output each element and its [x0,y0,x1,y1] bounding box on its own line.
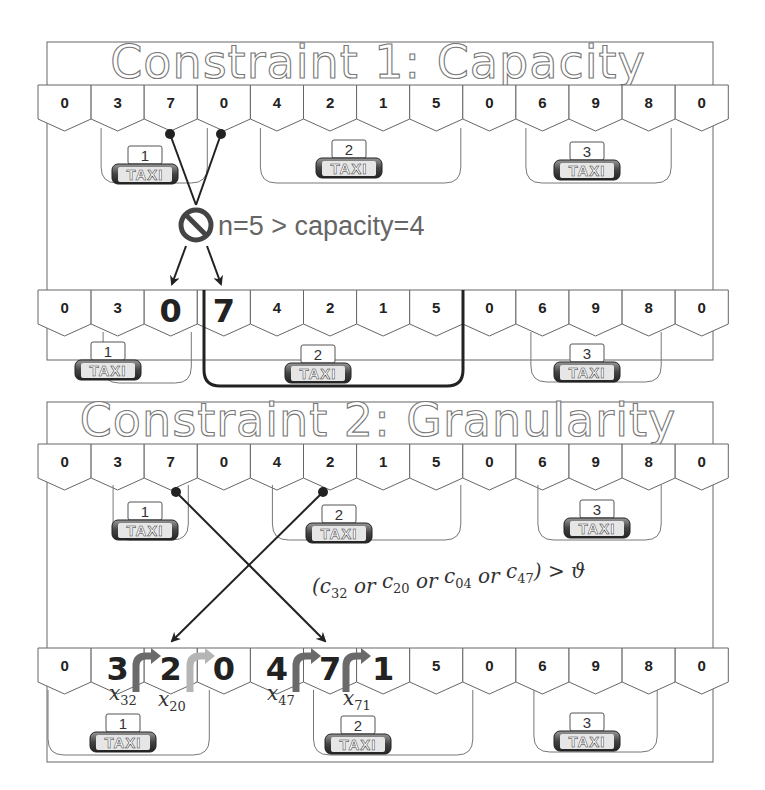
sequence-cell: 4 [250,444,303,490]
cell-value: 0 [213,650,235,688]
cell-value: 8 [644,657,652,674]
cell-value: 4 [273,299,282,316]
cell-value: 8 [644,453,652,470]
taxi-badge: 1TAXI [90,714,156,752]
cell-value: 0 [698,299,706,316]
taxi-groups-before: 1TAXI2TAXI3TAXI [112,485,661,543]
diagram-canvas: Constraint 1: Capacity 0370421506980 1TA… [0,0,765,790]
panel-title: Constraint 1: Capacity [110,35,646,89]
cell-value: 3 [113,453,121,470]
cell-value: 0 [698,657,706,674]
cell-value: 0 [60,94,68,111]
sequence-cell: 9 [569,648,622,694]
cell-value: 5 [432,453,440,470]
sequence-cell: 0 [675,85,728,131]
sequence-cell: 0 [38,85,91,131]
taxi-badge: 1TAXI [112,146,178,184]
transition-label: x71 [343,686,371,713]
taxi-number: 3 [583,345,591,362]
sequence-cell: 1 [357,85,410,131]
taxi-label: TAXI [578,520,615,537]
taxi-label: TAXI [320,525,357,542]
sequence-cell: 1 [357,444,410,490]
cell-value: 7 [167,94,175,111]
sequence-cell: 0 [38,648,91,694]
sequence-cell: 5 [410,444,463,490]
sequence-cell: 0 [463,85,516,131]
taxi-number: 3 [583,143,591,160]
taxi-number: 2 [354,717,362,734]
cell-value: 0 [220,94,228,111]
taxi-label: TAXI [126,166,163,183]
cell-value: 0 [220,453,228,470]
taxi-label: TAXI [568,733,605,750]
sequence-cell: 0 [675,444,728,490]
sequence-cell: 0 [675,648,728,694]
taxi-label: TAXI [299,365,336,382]
sequence-cell: 0 [675,290,728,336]
cell-value: 2 [326,94,334,111]
cell-value: 8 [644,94,652,111]
sequence-cell: 0 [463,648,516,694]
cell-value: 0 [160,292,182,330]
cell-value: 6 [538,94,546,111]
cell-value: 9 [591,657,599,674]
cell-value: 6 [538,299,546,316]
taxi-groups-before: 1TAXI2TAXI3TAXI [101,128,671,184]
panel-capacity: Constraint 1: Capacity 0370421506980 1TA… [38,35,728,386]
sequence-cell: 0 [38,290,91,336]
sequence-cell: 8 [622,648,675,694]
capacity-violation-note: n=5 > capacity=4 [218,211,424,241]
taxi-label: TAXI [568,364,605,381]
sequence-cell: 8 [622,444,675,490]
cell-value: 1 [379,94,387,111]
cell-value: 3 [113,299,121,316]
sequence-cell: 3 [91,85,144,131]
sequence-cell: 3 [91,290,144,336]
taxi-badge: 2TAXI [316,140,382,178]
sequence-cell: 5 [410,648,463,694]
sequence-cell: 2 [304,290,357,336]
cell-value: 6 [538,657,546,674]
panel-granularity: Constraint 2: Granularity 0370421506980 … [38,393,728,762]
taxi-number: 3 [593,501,601,518]
cell-value: 5 [432,299,440,316]
sequence-cell: 0 [463,444,516,490]
taxi-label: TAXI [126,522,163,539]
cell-value: 0 [60,453,68,470]
taxi-number: 2 [314,346,322,363]
taxi-number: 1 [141,503,149,520]
sequence-cell: 5 [410,85,463,131]
cell-value: 0 [60,299,68,316]
taxi-label: TAXI [339,736,376,753]
taxi-number: 1 [141,147,149,164]
sequence-cell: 2 [304,85,357,131]
sequence-cell: 6 [516,85,569,131]
sequence-cell: 9 [569,85,622,131]
sequence-cell: 0 [197,85,250,131]
sequence-cell: 6 [516,290,569,336]
sequence-cell: 4 [250,85,303,131]
cell-value: 5 [432,657,440,674]
cell-value: 1 [372,650,394,688]
cell-value: 0 [485,299,493,316]
taxi-number: 2 [335,506,343,523]
swap-arrows [165,129,226,284]
swap-arrows [171,487,328,641]
cell-value: 2 [160,650,182,688]
taxi-label: TAXI [104,734,141,751]
taxi-badge: 2TAXI [285,345,351,383]
sequence-cell: 7 [144,444,197,490]
taxi-badge: 3TAXI [554,142,620,180]
sequence-cell: 0 [197,444,250,490]
sequence-cell: 0 [38,444,91,490]
sequence-cell: 1 [357,290,410,336]
sequence-cell: 3 [91,444,144,490]
cell-value: 0 [698,453,706,470]
taxi-number: 1 [119,715,127,732]
taxi-badge: 1TAXI [75,342,141,380]
cell-value: 3 [113,94,121,111]
cell-value: 1 [379,299,387,316]
sequence-row-before: 0370421506980 [38,444,728,490]
panel-title: Constraint 2: Granularity [80,393,676,447]
